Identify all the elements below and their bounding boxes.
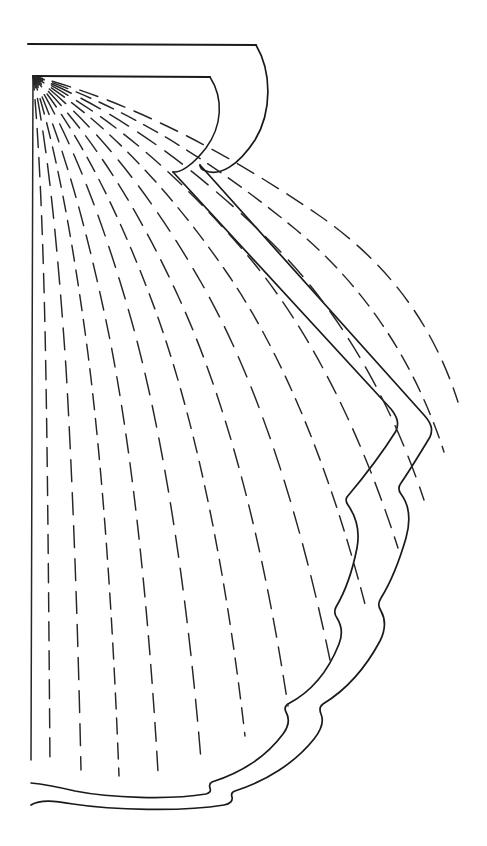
hinge-inner-line	[33, 76, 210, 77]
shell-illustration-svg	[0, 0, 487, 846]
figure-root	[0, 0, 487, 846]
hinge-top-line	[28, 44, 256, 45]
